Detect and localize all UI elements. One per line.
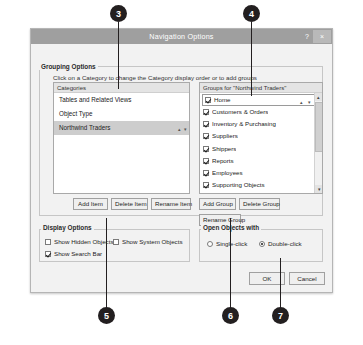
- list-item[interactable]: Reports: [200, 155, 322, 167]
- checkbox-icon[interactable]: [203, 146, 209, 152]
- group-label: Inventory & Purchasing: [212, 118, 276, 130]
- checkbox-icon[interactable]: [45, 239, 51, 245]
- chevron-up-icon[interactable]: ▴: [178, 122, 181, 136]
- leader-line-3: [118, 22, 119, 89]
- leader-line-7: [280, 258, 281, 308]
- category-spinner[interactable]: ▴ ▾: [165, 124, 187, 133]
- display-options-label: Display Options: [41, 224, 94, 231]
- show-system-objects-checkbox[interactable]: Show System Objects: [113, 238, 183, 245]
- titlebar-buttons: ? ×: [303, 29, 331, 44]
- checkbox-label: Show Search Bar: [54, 250, 102, 257]
- double-click-radio[interactable]: Double-click: [259, 240, 302, 247]
- cancel-button[interactable]: Cancel: [289, 272, 325, 285]
- scroll-down-icon[interactable]: ▾: [315, 185, 322, 193]
- categories-pane: Categories Tables and Related Views Obje…: [53, 82, 190, 194]
- add-group-button[interactable]: Add Group: [199, 198, 236, 210]
- group-label: Employees: [212, 167, 243, 179]
- dialog-titlebar: Navigation Options ? ×: [31, 29, 332, 44]
- group-label: Home: [214, 94, 231, 106]
- group-label: Reports: [212, 155, 234, 167]
- radio-icon[interactable]: [259, 241, 265, 247]
- checkbox-icon[interactable]: [203, 158, 209, 164]
- groups-header: Groups for "Northwind Traders": [200, 83, 322, 93]
- callout-badge-7: 7: [272, 307, 289, 324]
- delete-group-button[interactable]: Delete Group: [239, 198, 280, 210]
- navigation-options-dialog: Navigation Options ? × Grouping Options …: [30, 28, 333, 293]
- checkbox-icon[interactable]: [203, 182, 209, 188]
- chevron-up-icon[interactable]: ▴: [300, 96, 303, 108]
- checkbox-icon[interactable]: [45, 251, 51, 257]
- radio-label: Double-click: [268, 240, 302, 247]
- group-label: Customers & Orders: [212, 106, 268, 118]
- grouping-hint-text: Click on a Category to change the Catego…: [53, 74, 257, 81]
- dialog-title: Navigation Options: [149, 32, 213, 41]
- checkbox-icon[interactable]: [203, 109, 209, 115]
- callout-number: 3: [116, 9, 121, 19]
- checkbox-label: Show Hidden Objects: [54, 238, 114, 245]
- show-search-bar-checkbox[interactable]: Show Search Bar: [45, 250, 102, 257]
- dialog-body: Grouping Options Click on a Category to …: [31, 44, 332, 294]
- callout-badge-6: 6: [222, 307, 239, 324]
- list-item[interactable]: Suppliers: [200, 130, 322, 142]
- list-item[interactable]: Object Type: [54, 107, 189, 121]
- group-spinner[interactable]: ▴ ▾: [300, 96, 311, 108]
- group-label: Supporting Objects: [212, 179, 265, 191]
- groups-list[interactable]: Home ▴ ▾ Customers & Orders Inventory & …: [200, 93, 322, 193]
- category-label: Tables and Related Views: [59, 96, 131, 103]
- list-item[interactable]: Home ▴ ▾: [202, 94, 320, 106]
- list-item[interactable]: Shippers: [200, 143, 322, 155]
- categories-header: Categories: [54, 83, 189, 93]
- checkbox-label: Show System Objects: [122, 238, 183, 245]
- display-options-group: [39, 229, 190, 262]
- checkbox-icon[interactable]: [203, 121, 209, 127]
- show-hidden-objects-checkbox[interactable]: Show Hidden Objects: [45, 238, 114, 245]
- category-label: Northwind Traders: [59, 124, 110, 131]
- callout-number: 4: [249, 9, 254, 19]
- leader-line-4: [251, 22, 252, 96]
- callout-badge-4: 4: [243, 5, 260, 22]
- scroll-up-icon[interactable]: ▴: [315, 93, 322, 101]
- help-icon[interactable]: ?: [303, 33, 311, 40]
- list-item[interactable]: Employees: [200, 167, 322, 179]
- radio-icon[interactable]: [207, 241, 213, 247]
- group-label: Shippers: [212, 143, 236, 155]
- leader-line-5: [106, 218, 107, 308]
- list-item[interactable]: Supporting Objects: [200, 179, 322, 191]
- single-click-radio[interactable]: Single-click: [207, 240, 247, 247]
- list-item[interactable]: Inventory & Purchasing: [200, 118, 322, 130]
- screenshot-root: Navigation Options ? × Grouping Options …: [0, 0, 363, 345]
- scrollbar-thumb[interactable]: [315, 102, 322, 152]
- add-item-button[interactable]: Add Item: [73, 198, 108, 210]
- close-icon[interactable]: ×: [313, 30, 331, 43]
- list-item[interactable]: Tables and Related Views: [54, 93, 189, 107]
- delete-item-button[interactable]: Delete Item: [111, 198, 148, 210]
- radio-label: Single-click: [216, 240, 247, 247]
- callout-badge-5: 5: [98, 307, 115, 324]
- categories-list[interactable]: Tables and Related Views Object Type Nor…: [54, 93, 189, 193]
- group-label: Suppliers: [212, 130, 238, 142]
- rename-item-button[interactable]: Rename Item: [151, 198, 191, 210]
- callout-number: 7: [278, 311, 283, 321]
- leader-line-6: [230, 218, 231, 308]
- grouping-options-label: Grouping Options: [39, 63, 98, 70]
- groups-pane: Groups for "Northwind Traders" Home ▴ ▾ …: [199, 82, 323, 194]
- checkbox-icon[interactable]: [205, 97, 211, 103]
- callout-number: 6: [228, 311, 233, 321]
- groups-scrollbar[interactable]: ▴ ▾: [314, 93, 322, 193]
- callout-badge-3: 3: [110, 5, 127, 22]
- callout-number: 5: [104, 311, 109, 321]
- open-objects-label: Open Objects with: [201, 224, 261, 231]
- checkbox-icon[interactable]: [203, 133, 209, 139]
- category-label: Object Type: [59, 110, 93, 117]
- checkbox-icon[interactable]: [203, 170, 209, 176]
- chevron-down-icon[interactable]: ▾: [184, 122, 187, 136]
- list-item-selected[interactable]: Northwind Traders ▴ ▾: [54, 121, 189, 135]
- chevron-down-icon[interactable]: ▾: [308, 96, 311, 108]
- checkbox-icon[interactable]: [113, 239, 119, 245]
